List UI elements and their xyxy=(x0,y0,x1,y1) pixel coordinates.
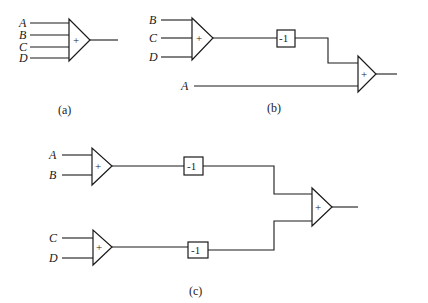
input-label-c: C xyxy=(49,231,58,245)
input-label-d: D xyxy=(48,251,58,265)
input-label-a: A xyxy=(48,148,57,162)
input-label-a: A xyxy=(180,79,189,93)
adder-plus-sign: + xyxy=(361,68,367,80)
input-label-d: D xyxy=(18,51,28,65)
wire-gain-to-adder xyxy=(208,221,312,250)
adder-plus-sign: + xyxy=(315,201,321,213)
panel-b: B C D + -1 A + (b) xyxy=(148,13,397,115)
gain-label: -1 xyxy=(279,32,288,44)
block-diagram: A B C D + (a) B C D + -1 A + (b) A B xyxy=(0,0,428,303)
input-label-b: B xyxy=(49,168,57,182)
input-label-b: B xyxy=(149,13,157,27)
wire-gain-to-adder xyxy=(295,38,358,63)
adder-plus-sign: + xyxy=(73,34,79,46)
gain-label: -1 xyxy=(187,160,196,172)
panel-a: A B C D + (a) xyxy=(18,16,118,117)
gain-label: -1 xyxy=(191,244,200,256)
wire-gain-to-adder xyxy=(203,166,312,194)
adder-plus-sign: + xyxy=(196,32,202,44)
panel-b-caption: (b) xyxy=(267,101,281,115)
panel-c: A B + -1 C D + -1 + (c) xyxy=(48,148,358,298)
panel-a-caption: (a) xyxy=(58,103,71,117)
panel-c-caption: (c) xyxy=(189,284,202,298)
input-label-d: D xyxy=(148,50,158,64)
adder-plus-sign: + xyxy=(95,160,101,172)
adder-plus-sign: + xyxy=(96,241,102,253)
input-label-c: C xyxy=(149,31,158,45)
